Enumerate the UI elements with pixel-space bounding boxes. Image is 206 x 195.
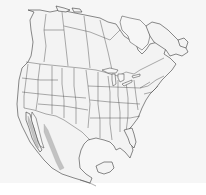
arctic-island-2 bbox=[72, 8, 82, 12]
arctic-island-1 bbox=[56, 6, 70, 12]
north-america-map bbox=[0, 0, 206, 195]
lake-michigan bbox=[112, 74, 116, 86]
yucatan-peninsula bbox=[96, 162, 114, 174]
